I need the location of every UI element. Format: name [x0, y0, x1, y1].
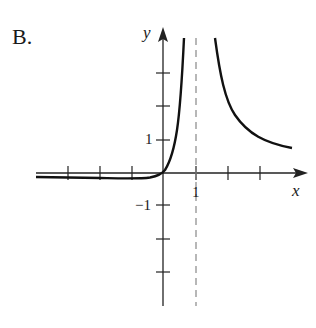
- y-tick-label-1: 1: [145, 132, 153, 147]
- graph-canvas: [0, 0, 316, 328]
- curve-left-branch: [36, 38, 184, 179]
- y-axis-label: y: [143, 24, 151, 41]
- graph-figure: B.: [0, 0, 316, 328]
- x-tick-label-1: 1: [192, 185, 200, 200]
- curve-right-branch: [215, 38, 292, 148]
- y-tick-label-neg1: −1: [135, 198, 151, 213]
- x-axis-label: x: [292, 182, 300, 199]
